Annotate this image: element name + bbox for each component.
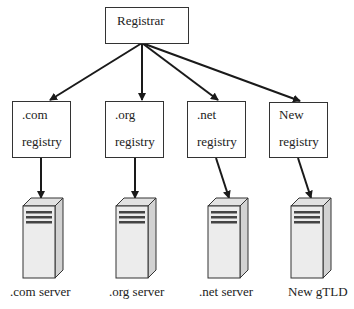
registry-type: registry <box>115 135 155 149</box>
registry-type: registry <box>22 135 62 149</box>
registry-name: .org <box>115 108 135 122</box>
arrow-net-server <box>216 158 229 198</box>
registrar-box: Registrar <box>105 7 189 44</box>
server-label-new: New gTLD <box>288 284 348 300</box>
registry-box-new: New registry <box>269 102 328 158</box>
arrow-to-net <box>142 43 218 100</box>
server-label-net: .net server <box>199 284 253 300</box>
registry-box-org: .org registry <box>105 101 164 158</box>
server-tower-icon <box>291 198 331 278</box>
registry-name: .com <box>22 108 48 122</box>
registry-name: .net <box>197 108 216 122</box>
server-arrows <box>41 158 311 198</box>
registry-box-com: .com registry <box>12 101 71 158</box>
registry-type: registry <box>279 135 319 149</box>
arrow-to-com <box>50 43 142 100</box>
registrar-label: Registrar <box>117 14 165 28</box>
server-tower-icon <box>23 198 63 278</box>
registrar-arrows <box>50 43 300 101</box>
arrow-new-server <box>298 158 311 198</box>
server-tower-icon <box>116 198 156 278</box>
arrow-to-new <box>142 43 300 101</box>
registry-box-net: .net registry <box>187 101 246 158</box>
server-tower-icon <box>208 198 248 278</box>
server-label-org: .org server <box>109 284 164 300</box>
registry-type: registry <box>197 135 237 149</box>
server-label-com: .com server <box>10 284 71 300</box>
registry-name: New <box>279 108 304 122</box>
